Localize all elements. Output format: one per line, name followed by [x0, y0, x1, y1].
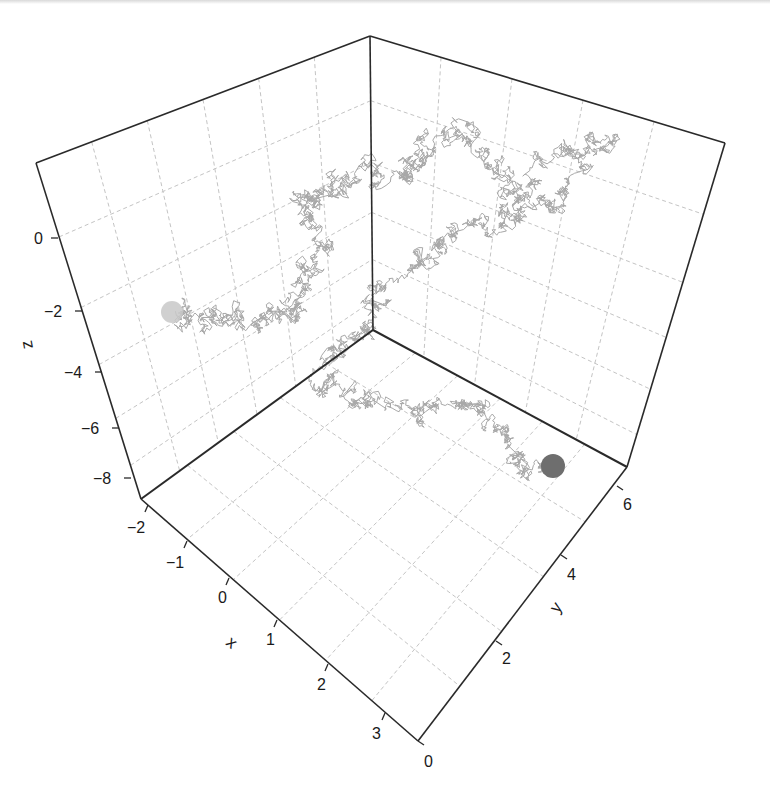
z-tick--8: −8 [93, 470, 111, 487]
z-tick--4: −4 [64, 364, 82, 381]
grid-lines [59, 57, 703, 701]
y-axis-title: y [546, 598, 567, 616]
end-marker [541, 454, 565, 478]
z-tick--2: −2 [44, 303, 62, 320]
z-tick-0: 0 [34, 230, 43, 247]
box-edges [36, 36, 725, 741]
x-tick--2: −2 [127, 519, 145, 536]
3d-plot[interactable]: 0 −2 −4 −6 −8 z −2 −1 0 1 2 3 x 0 2 4 6 … [0, 0, 770, 802]
y-tick-4: 4 [567, 566, 576, 583]
z-axis-title: z [17, 339, 37, 351]
start-marker [161, 301, 183, 323]
x-tick-1: 1 [266, 631, 275, 648]
x-tick--1: −1 [166, 554, 184, 571]
y-tick-6: 6 [623, 496, 632, 513]
y-tick-2: 2 [502, 650, 511, 667]
y-tick-0: 0 [424, 753, 433, 770]
x-tick-2: 2 [317, 676, 326, 693]
z-tick--6: −6 [81, 420, 99, 437]
axis-ticks [51, 238, 623, 745]
x-axis-title: x [222, 633, 241, 653]
x-tick-0: 0 [218, 589, 227, 606]
x-tick-3: 3 [372, 725, 381, 742]
